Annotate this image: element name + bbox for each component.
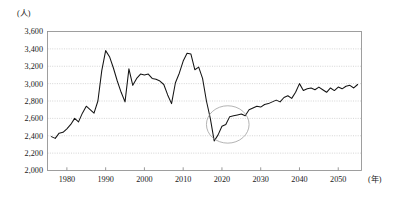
x-tick-label: 1980: [59, 175, 75, 184]
x-tick-label: 2010: [175, 175, 191, 184]
x-axis-title: (年): [368, 174, 382, 184]
gridlines: [48, 49, 362, 153]
x-tick-label: 2000: [136, 175, 152, 184]
y-tick-label: 3,600: [25, 27, 43, 36]
annotations-layer: [206, 106, 249, 143]
y-tick-label: 2,000: [25, 166, 43, 175]
y-tick-label: 2,400: [25, 132, 43, 141]
y-axis-tick-labels: 2,0002,2002,4002,6002,8003,0003,2003,400…: [25, 27, 43, 175]
x-tick-label: 2040: [291, 175, 307, 184]
y-tick-label: 3,400: [25, 45, 43, 54]
chart-svg: 2,0002,2002,4002,6002,8003,0003,2003,400…: [0, 0, 402, 202]
x-axis-tick-labels: 19801990200020102020203020402050: [59, 175, 347, 184]
y-tick-label: 2,600: [25, 114, 43, 123]
y-tick-label: 3,000: [25, 80, 43, 89]
line-chart: 2,0002,2002,4002,6002,8003,0003,2003,400…: [0, 0, 402, 202]
x-tick-label: 2030: [253, 175, 269, 184]
y-tick-label: 3,200: [25, 62, 43, 71]
data-series-line: [51, 51, 357, 141]
trough-highlight-ellipse: [206, 106, 249, 143]
y-tick-label: 2,800: [25, 97, 43, 106]
x-axis-ticks: [67, 167, 338, 170]
y-tick-label: 2,200: [25, 149, 43, 158]
y-axis-title: (人): [17, 9, 31, 18]
x-tick-label: 2050: [330, 175, 346, 184]
x-tick-label: 2020: [214, 175, 230, 184]
x-tick-label: 1990: [97, 175, 113, 184]
